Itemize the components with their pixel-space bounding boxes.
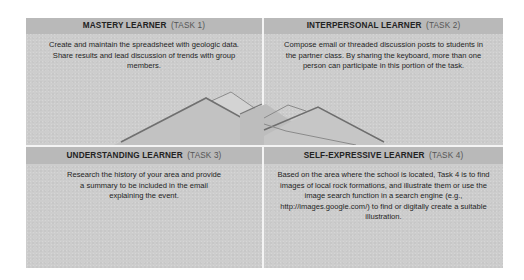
panel-header: SELF-EXPRESSIVE LEARNER (TASK 4) — [264, 147, 503, 164]
panel-understanding-learner: UNDERSTANDING LEARNER (TASK 3) Research … — [26, 147, 262, 268]
panel-title: MASTERY LEARNER — [83, 21, 167, 30]
panel-task-label: (TASK 1) — [171, 21, 205, 30]
panel-description: Research the history of your area and pr… — [26, 164, 262, 202]
panel-interpersonal-learner: INTERPERSONAL LEARNER (TASK 2) Compose e… — [264, 18, 503, 145]
learner-task-grid: MASTERY LEARNER (TASK 1) Create and main… — [26, 18, 503, 268]
panel-task-label: (TASK 4) — [429, 151, 463, 160]
panel-description: Compose email or threaded discussion pos… — [264, 34, 503, 72]
panel-header: INTERPERSONAL LEARNER (TASK 2) — [264, 18, 503, 34]
panel-description: Create and maintain the spreadsheet with… — [26, 34, 262, 72]
panel-header: UNDERSTANDING LEARNER (TASK 3) — [26, 147, 262, 164]
panel-self-expressive-learner: SELF-EXPRESSIVE LEARNER (TASK 4) Based o… — [264, 147, 503, 268]
panel-task-label: (TASK 2) — [426, 21, 460, 30]
panel-title: SELF-EXPRESSIVE LEARNER — [304, 151, 425, 160]
panel-mastery-learner: MASTERY LEARNER (TASK 1) Create and main… — [26, 18, 262, 145]
panel-task-label: (TASK 3) — [187, 151, 221, 160]
panel-title: INTERPERSONAL LEARNER — [307, 21, 422, 30]
panel-title: UNDERSTANDING LEARNER — [67, 151, 183, 160]
panel-header: MASTERY LEARNER (TASK 1) — [26, 18, 262, 34]
panel-description: Based on the area where the school is lo… — [264, 164, 503, 223]
